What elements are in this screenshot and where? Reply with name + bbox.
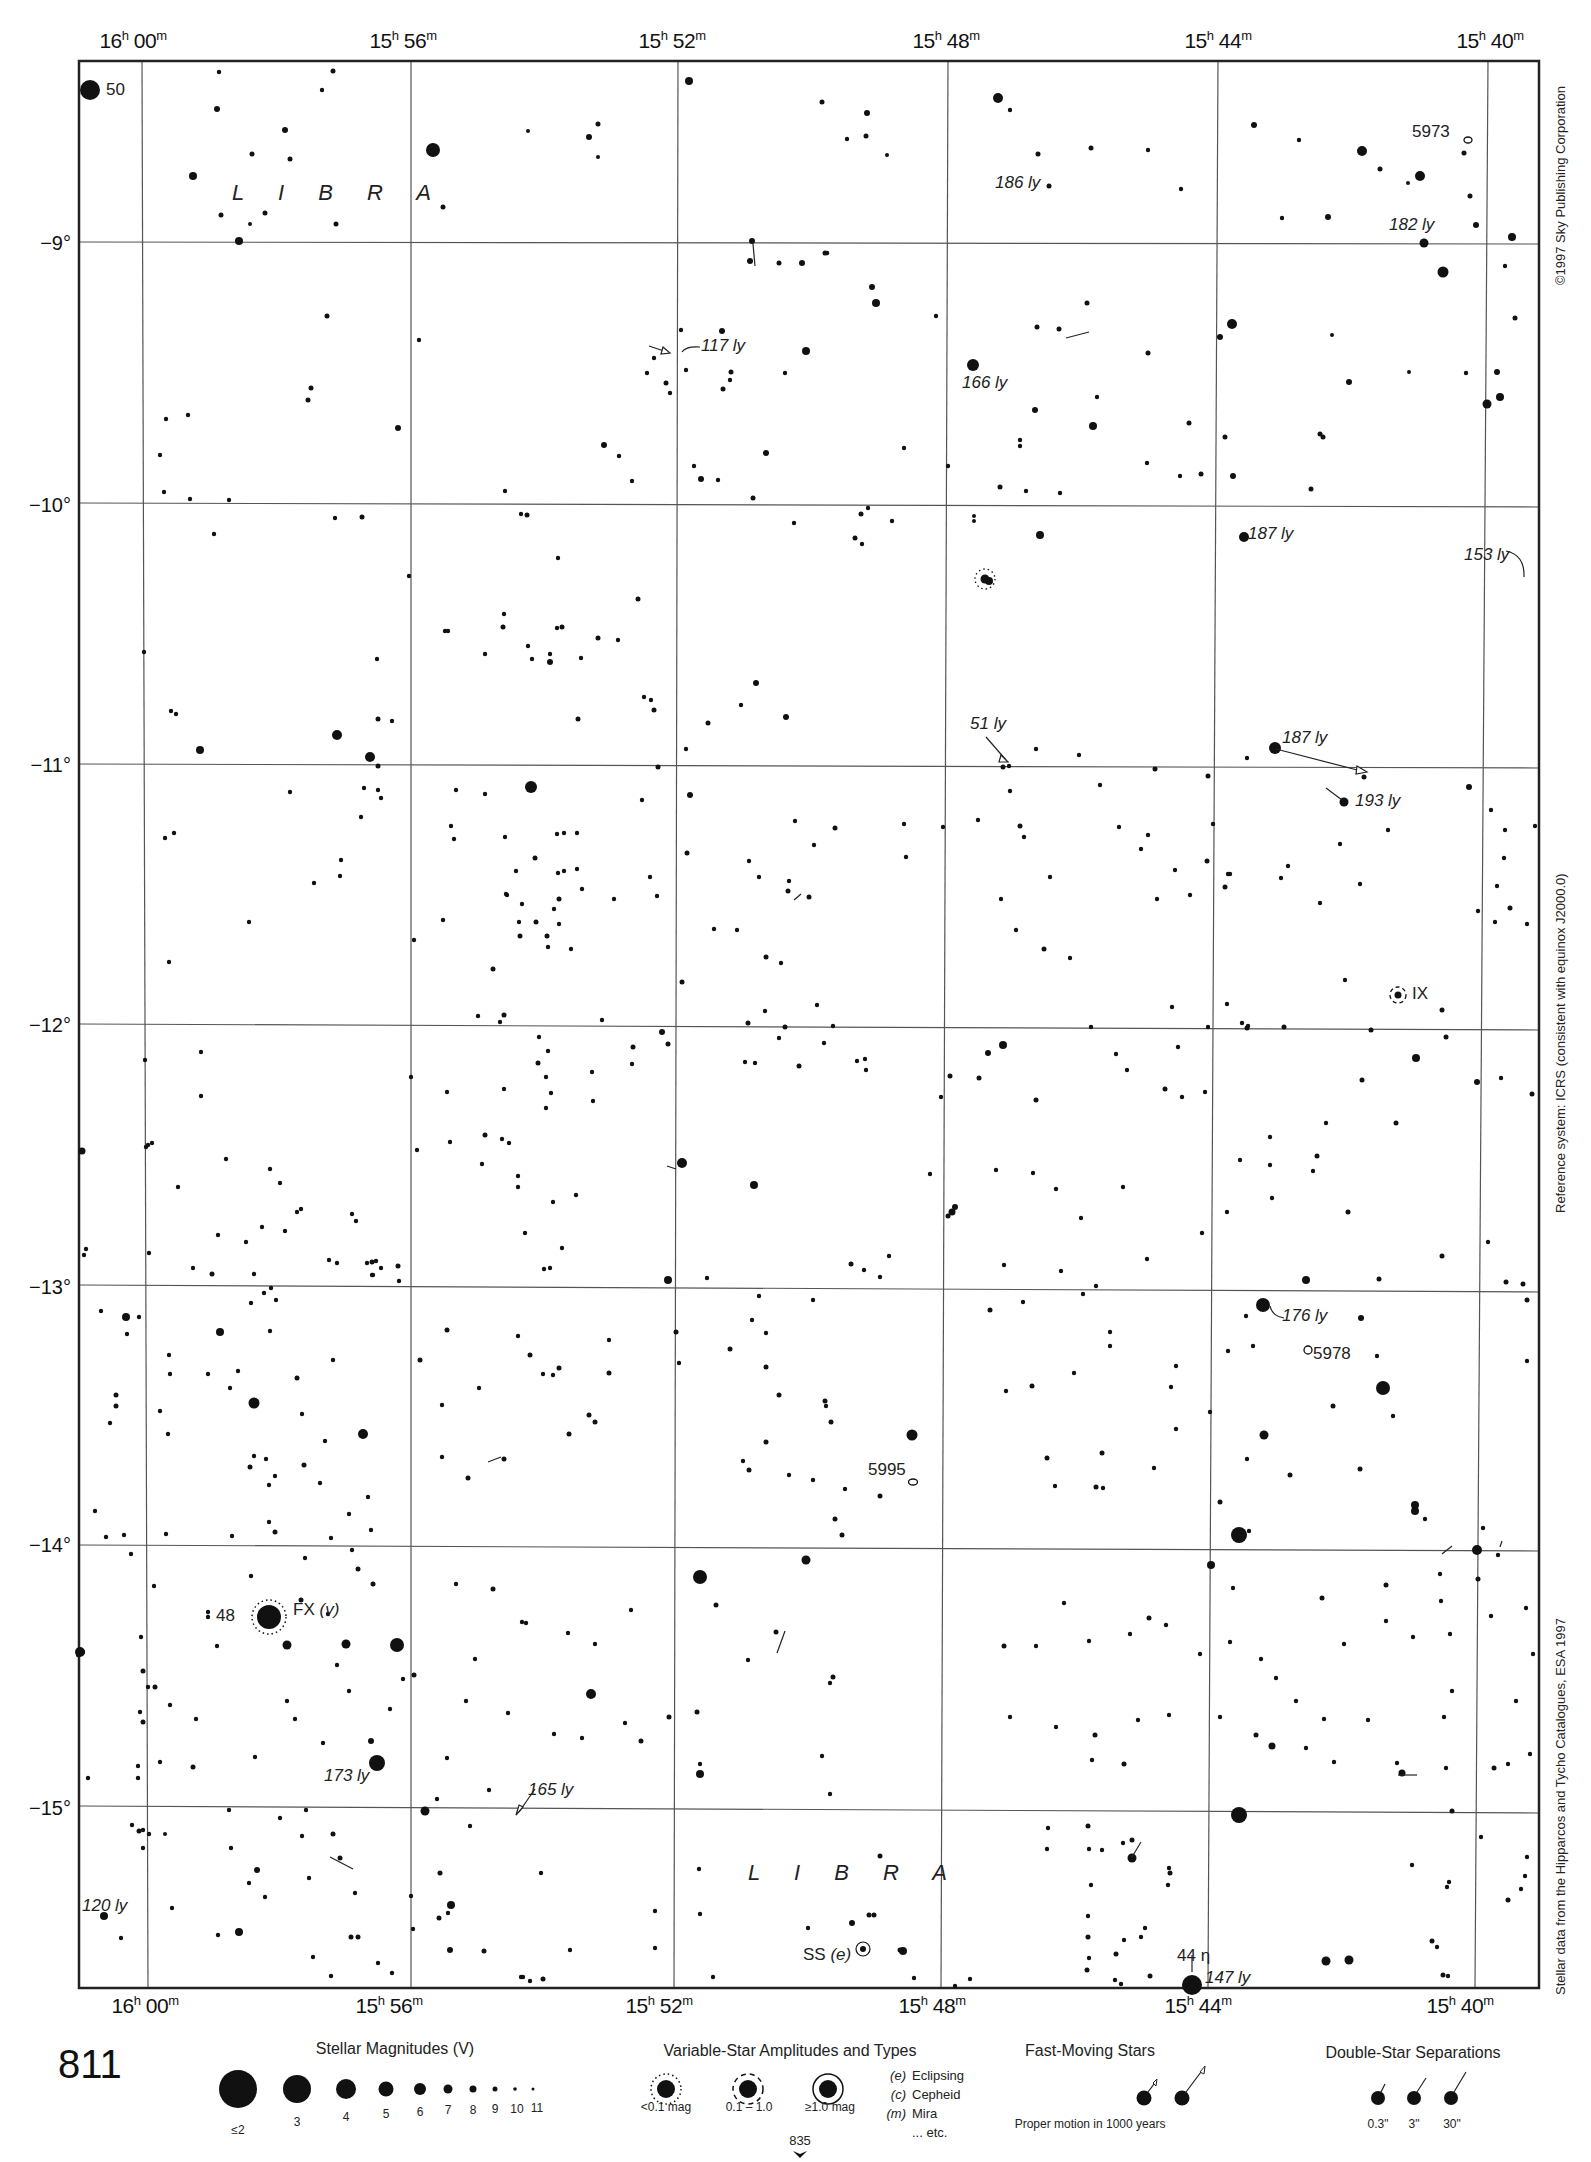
- mag-label: 3: [294, 2115, 301, 2129]
- star-label-48: 48: [216, 1606, 235, 1626]
- constellation-label-libra: L I B R A: [232, 180, 445, 206]
- mag-label: 11: [531, 2101, 543, 2115]
- distance-label-187ly: 187 ly: [1248, 524, 1293, 544]
- copyright-note: ©1997 Sky Publishing Corporation: [1553, 86, 1568, 285]
- variable-label-fx: FX (v): [293, 1600, 339, 1620]
- distance-label-186ly: 186 ly: [995, 173, 1040, 193]
- amplitude-label: 0.1 – 1.0: [726, 2100, 773, 2114]
- separation-label: 30": [1443, 2117, 1461, 2131]
- distance-label-173ly: 173 ly: [324, 1766, 369, 1786]
- legend-fast-moving-title: Fast-Moving Stars: [1025, 2042, 1155, 2060]
- distance-label-117ly: 117 ly: [701, 336, 745, 356]
- mag-label: 10: [510, 2102, 523, 2116]
- star-label-44-eta: 44 η: [1177, 1946, 1210, 1966]
- reference-system-note: Reference system: ICRS (consistent with …: [1553, 873, 1568, 1213]
- fast-moving-caption: Proper motion in 1000 years: [1015, 2117, 1166, 2131]
- mag-label: 8: [470, 2103, 477, 2117]
- legend-variables-title: Variable-Star Amplitudes and Types: [664, 2042, 917, 2060]
- distance-label-165ly: 165 ly: [528, 1780, 573, 1800]
- variable-label-ss: SS (e): [803, 1945, 851, 1965]
- separation-label: 3": [1409, 2117, 1420, 2131]
- continuation-arrow-icon[interactable]: [792, 2150, 808, 2160]
- type-eclipsing: (e)Eclipsing: [872, 2068, 964, 2083]
- star-label-50: 50: [106, 80, 125, 100]
- mag-label: 9: [492, 2102, 499, 2116]
- magnitude-scale: [200, 2060, 580, 2140]
- type-mira: (m)Mira: [872, 2106, 937, 2121]
- deep-sky-objects: [909, 137, 1473, 1485]
- ngc-label-5973: 5973: [1412, 122, 1450, 142]
- fast-moving-symbols: [1120, 2060, 1240, 2120]
- mag-label: 7: [445, 2103, 452, 2117]
- distance-label-153ly: 153 ly: [1464, 545, 1509, 565]
- mag-label: 6: [417, 2105, 424, 2119]
- separation-label: 0.3": [1368, 2117, 1389, 2131]
- star-chart: [0, 0, 1591, 2162]
- type-etc: ... etc.: [872, 2125, 947, 2140]
- variable-label-ix: IX: [1412, 984, 1428, 1004]
- distance-label-187ly-b: 187 ly: [1282, 728, 1327, 748]
- continuation-page-number: 835: [789, 2133, 811, 2148]
- mag-label: ≤2: [231, 2123, 244, 2137]
- distance-label-51ly: 51 ly: [970, 714, 1006, 734]
- constellation-label-libra: L I B R A: [748, 1860, 961, 1886]
- legend-magnitudes-title: Stellar Magnitudes (V): [316, 2040, 474, 2058]
- page-number: 811: [58, 2042, 122, 2087]
- distance-label-120ly: 120 ly: [82, 1896, 127, 1916]
- double-star-symbols: [1350, 2060, 1510, 2120]
- distance-label-147ly: 147 ly: [1205, 1968, 1250, 1988]
- variable-stars: [252, 569, 1406, 1956]
- distance-label-193ly: 193 ly: [1355, 791, 1400, 811]
- data-source-note: Stellar data from the Hipparcos and Tych…: [1553, 1618, 1568, 1995]
- amplitude-label: <0.1 mag: [641, 2100, 691, 2114]
- distance-label-166ly: 166 ly: [962, 373, 1007, 393]
- mag-label: 5: [383, 2107, 390, 2121]
- ngc-label-5978: 5978: [1313, 1344, 1351, 1364]
- distance-label-176ly: 176 ly: [1282, 1306, 1327, 1326]
- stars: [75, 69, 1537, 1996]
- mag-label: 4: [343, 2110, 350, 2124]
- ngc-label-5995: 5995: [868, 1460, 906, 1480]
- distance-label-182ly: 182 ly: [1389, 215, 1434, 235]
- amplitude-label: ≥1.0 mag: [805, 2100, 855, 2114]
- type-cepheid: (c)Cepheid: [872, 2087, 960, 2102]
